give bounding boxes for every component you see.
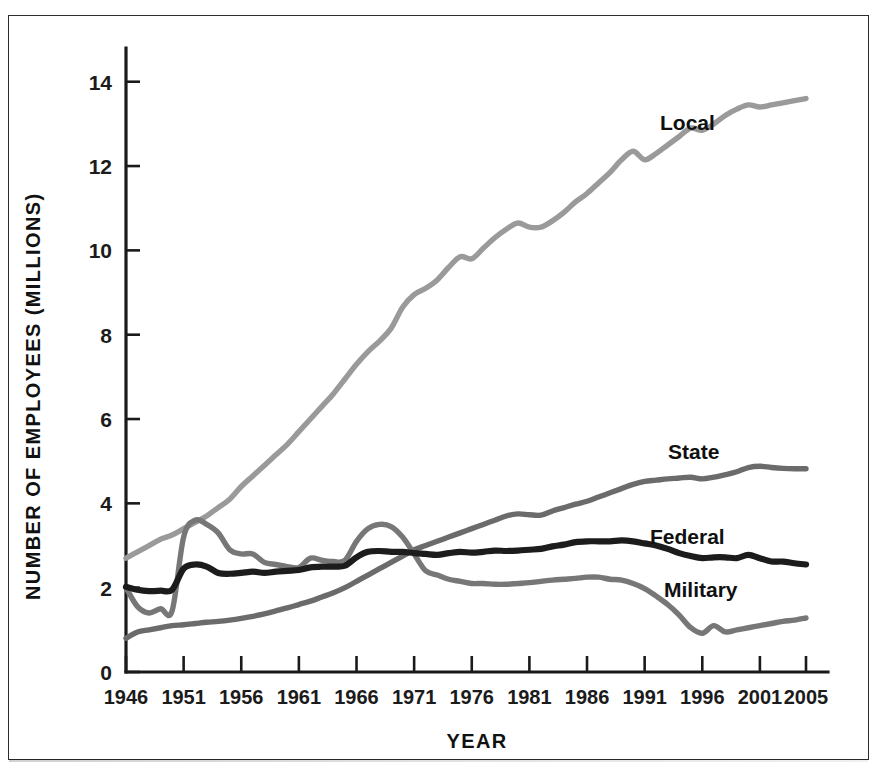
x-tick-label: 2001: [738, 686, 783, 708]
y-tick-label: 10: [89, 239, 112, 262]
figure-page: 02468101214 1946195119561961196619711976…: [0, 0, 883, 784]
y-tick-label: 2: [100, 577, 112, 600]
x-tick-label: 1961: [277, 686, 322, 708]
series-label-local: Local: [660, 111, 715, 134]
y-tick-label: 6: [100, 408, 112, 431]
x-tick-label: 1971: [392, 686, 437, 708]
x-axis-title: YEAR: [446, 730, 507, 752]
chart-svg: 02468101214 1946195119561961196619711976…: [0, 0, 883, 784]
y-tick-label: 0: [100, 661, 112, 684]
y-tick-label: 4: [100, 492, 112, 515]
series-label-state: State: [668, 440, 719, 463]
x-tick-label: 1946: [104, 686, 149, 708]
series-line-local: [126, 99, 806, 559]
x-tick-label: 1976: [450, 686, 495, 708]
line-chart: 02468101214 1946195119561961196619711976…: [0, 0, 883, 784]
x-axis-ticks: 1946195119561961196619711976198119861991…: [104, 656, 829, 708]
x-tick-label: 2005: [784, 686, 829, 708]
x-tick-label: 1981: [507, 686, 552, 708]
x-tick-label: 1956: [219, 686, 264, 708]
x-tick-label: 1996: [680, 686, 725, 708]
series-label-military: Military: [664, 578, 738, 601]
y-axis-title: NUMBER OF EMPLOYEES (MILLIONS): [22, 192, 44, 600]
series-lines: [126, 99, 806, 639]
x-tick-label: 1991: [622, 686, 667, 708]
x-tick-label: 1966: [334, 686, 379, 708]
series-label-federal: Federal: [650, 525, 725, 548]
x-tick-label: 1986: [565, 686, 610, 708]
y-axis-ticks: 02468101214: [89, 71, 140, 684]
y-tick-label: 12: [89, 155, 112, 178]
x-tick-label: 1951: [161, 686, 206, 708]
y-tick-label: 14: [89, 71, 113, 94]
y-tick-label: 8: [100, 324, 112, 347]
